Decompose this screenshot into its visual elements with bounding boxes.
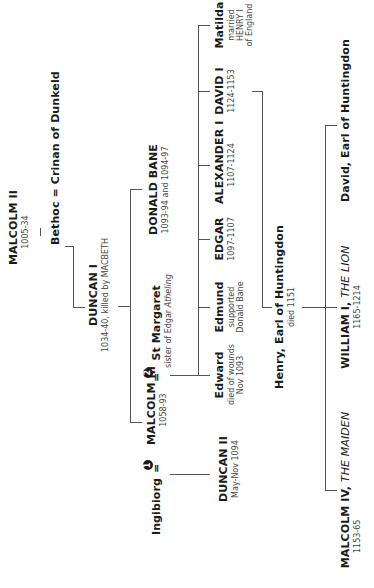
name: ALEXANDER I — [214, 126, 227, 204]
line-margaret-children — [170, 375, 198, 376]
dates: 1005-34 — [21, 199, 30, 265]
person-william-i: WILLIAM I, THE LION 1165-1214 — [340, 242, 362, 372]
note-line-1: supported — [227, 277, 236, 337]
person-matilda: Matilda married HENRY I of England — [214, 0, 254, 50]
dates: died 1151 — [287, 224, 296, 390]
line-duncan-siblings — [130, 189, 131, 422]
name: Henry, Earl of Huntingdon — [274, 224, 287, 390]
note-line-2: Nov 1093 — [236, 345, 245, 405]
name: Matilda — [214, 0, 227, 50]
person-henry: Henry, Earl of Huntingdon died 1151 — [274, 224, 296, 390]
name-line: MALCOLM IV, THE MAIDEN — [340, 405, 353, 575]
name: Edmund — [214, 277, 227, 337]
note-italic: Atheling — [164, 274, 173, 307]
dates: 1124-1153 — [227, 61, 236, 121]
line-to-duncan — [73, 307, 85, 308]
person-malcolm-iii: MALCOLM III 1058-93 — [146, 375, 168, 445]
person-duncan-ii: DUNCAN II May-Nov 1094 — [218, 436, 240, 502]
dates: 1153-65 — [353, 405, 362, 575]
line-to-edgar — [198, 239, 210, 240]
person-bethoc-crinan: Bethoc = Crinan of Dunkeld — [50, 71, 63, 245]
note-line-1: died of wounds — [227, 345, 236, 405]
name: MALCOLM II — [8, 199, 21, 265]
line-to-david1 — [198, 91, 210, 92]
person-duncan-i: DUNCAN I 1034-40, killed by MACBETH — [88, 235, 110, 355]
person-donald-bane: DONALD BANE 1093-94 and 1094-97 — [148, 145, 170, 235]
epithet: THE LION — [339, 245, 352, 298]
line-bethoc-tick — [65, 246, 73, 247]
line-duncan-children — [118, 306, 130, 307]
name: DUNCAN I — [88, 235, 101, 355]
note-text: sister of Edgar — [164, 310, 173, 368]
dates: 1107-1124 — [227, 126, 236, 204]
person-edmund: Edmund supported Donald Bane — [214, 277, 245, 337]
line-to-henry — [262, 307, 272, 308]
name: MALCOLM IV, — [339, 486, 352, 568]
dates: 1034-40, killed by MACBETH — [101, 235, 110, 355]
dates: 1165-1214 — [353, 242, 362, 372]
name: DUNCAN II — [218, 436, 231, 502]
name: EDGAR — [214, 209, 227, 269]
line-ingibiorg-children — [170, 474, 210, 475]
line-to-matilda — [198, 25, 210, 26]
note: sister of Edgar Atheling — [164, 274, 173, 368]
line-to-edward — [198, 375, 210, 376]
note-line-1: married — [227, 0, 236, 50]
person-david-huntingdon: David, Earl of Huntingdon — [340, 39, 353, 202]
line-to-edmund — [198, 307, 210, 308]
line-malcolm2-bethoc — [40, 228, 41, 236]
line-to-malcolm4 — [325, 490, 337, 491]
person-david-i: DAVID I 1124-1153 — [214, 61, 236, 121]
person-edward: Edward died of wounds Nov 1093 — [214, 345, 245, 405]
name: WILLIAM I, — [339, 302, 352, 369]
person-malcolm-iv: MALCOLM IV, THE MAIDEN 1153-65 — [340, 405, 362, 575]
line-to-william — [310, 307, 337, 308]
line-david1-down — [262, 91, 263, 308]
note-line-2: Donald Bane — [236, 277, 245, 337]
marriage-number-1-icon: 1 — [143, 461, 153, 471]
line-bethoc-duncan — [73, 246, 74, 308]
name: DONALD BANE — [148, 145, 161, 235]
name: MALCOLM III — [146, 375, 159, 445]
name: Edward — [214, 345, 227, 405]
line-margaret-siblings — [198, 25, 199, 375]
line-david1-henry — [252, 91, 262, 92]
line-to-alexander — [198, 165, 210, 166]
person-alexander-i: ALEXANDER I 1107-1124 — [214, 126, 236, 204]
name: St Margaret — [150, 285, 163, 360]
dates: 1058-93 — [159, 375, 168, 445]
person-edgar: EDGAR 1097-1107 — [214, 209, 236, 269]
line-to-donald — [130, 189, 142, 190]
marriage-number-2-icon: 2 — [143, 368, 153, 378]
dates: May-Nov 1094 — [231, 436, 240, 502]
epithet: THE MAIDEN — [339, 412, 352, 482]
line-to-malcolm3 — [130, 422, 142, 423]
note-line-2: HENRY I — [236, 0, 245, 50]
person-ingibiorg: Ingibiorg = 1 — [146, 449, 164, 536]
dates: 1093-94 and 1094-97 — [161, 145, 170, 235]
name: Bethoc = Crinan of Dunkeld — [50, 71, 63, 245]
name-line: WILLIAM I, THE LION — [340, 242, 353, 372]
person-malcolm-ii: MALCOLM II 1005-34 — [8, 199, 30, 265]
line-to-david-huntingdon — [325, 125, 337, 126]
dates: 1097-1107 — [227, 209, 236, 269]
note-line-3: of England — [245, 0, 254, 50]
name: David, Earl of Huntingdon — [340, 39, 353, 202]
person-st-margaret: = 2 St Margaret sister of Edgar Atheling — [146, 274, 174, 382]
name: Ingibiorg — [150, 478, 163, 535]
name: DAVID I — [214, 61, 227, 121]
